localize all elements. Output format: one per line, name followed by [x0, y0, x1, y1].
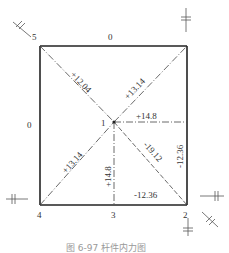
diag-4-1-force: +13.14: [60, 149, 85, 175]
horiz-1-right-force: +14.8: [136, 111, 157, 121]
bottom-member-force: -12.36: [134, 190, 158, 200]
top-member-force: 0: [108, 32, 113, 42]
figure-caption: 图 6-97 杆件内力图: [66, 242, 146, 253]
node-4-label: 4: [37, 210, 42, 220]
diag-5-1-force: +12.04: [69, 69, 94, 95]
left-member-force: 0: [27, 120, 32, 130]
node-1-label: 1: [101, 118, 106, 128]
frame: [40, 46, 187, 205]
members: [40, 46, 187, 205]
node-3-label: 3: [111, 210, 116, 220]
vert-1-3-force: +14.8: [103, 166, 113, 187]
node-2-label: 2: [183, 210, 188, 220]
node-5-label: 5: [32, 32, 37, 42]
diag-1-topright-force: +13.14: [122, 76, 147, 102]
truss-diagram: 5 1 2 3 4 0 0 +12.04 +13.14 +14.8 +13.14…: [0, 0, 229, 253]
node-1-dot: [112, 120, 115, 123]
right-member-force: -12.36: [175, 144, 185, 168]
diag-1-2-force: -19.12: [142, 140, 165, 164]
